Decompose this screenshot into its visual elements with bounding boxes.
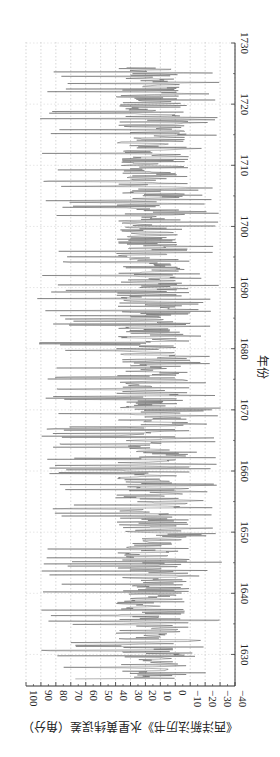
year-tick-label: 1730: [239, 32, 251, 55]
value-tick-label: 0: [177, 690, 189, 696]
value-tick-label: −40: [237, 690, 249, 708]
value-tick-label: −10: [192, 690, 204, 708]
y-axis-title: 《西洋新法历书》水星黄纬误差（角分）: [22, 719, 238, 734]
value-tick-label: 70: [73, 690, 85, 702]
mercury-latitude-error-chart: −40−30−20−100102030405060708090100163016…: [0, 0, 280, 757]
year-tick-label: 1690: [239, 277, 251, 300]
value-tick-label: 10: [162, 690, 174, 702]
data-series: [37, 68, 222, 679]
value-tick-label: 90: [43, 690, 55, 702]
value-tick-label: 100: [28, 690, 40, 707]
year-tick-label: 1650: [239, 521, 251, 544]
value-tick-label: 30: [133, 690, 145, 702]
year-tick-label: 1700: [239, 215, 251, 238]
year-tick-label: 1670: [239, 399, 251, 422]
year-tick-label: 1640: [239, 582, 251, 605]
x-axis-title: 年份: [255, 355, 269, 379]
value-tick-label: 20: [147, 690, 159, 702]
year-tick-label: 1630: [239, 643, 251, 666]
value-tick-label: 40: [118, 690, 130, 702]
year-tick-label: 1680: [239, 338, 251, 361]
year-tick-label: 1660: [239, 460, 251, 483]
value-tick-label: −20: [207, 690, 219, 708]
value-tick-label: −30: [222, 690, 234, 708]
series-line: [37, 68, 222, 679]
year-tick-label: 1710: [239, 154, 251, 177]
value-tick-label: 50: [103, 690, 115, 702]
value-tick-label: 60: [88, 690, 100, 702]
value-tick-label: 80: [58, 690, 70, 702]
year-tick-label: 1720: [239, 93, 251, 116]
